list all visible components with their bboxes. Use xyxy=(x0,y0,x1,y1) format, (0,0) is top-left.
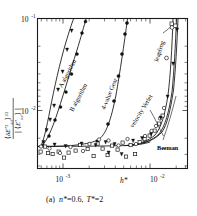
curve-label-four-value-gear: 4-value Gear xyxy=(99,76,118,110)
x-tick-exponent-left: -3 xyxy=(66,173,71,179)
y-title-numerator-symbol: δE xyxy=(4,129,11,136)
energy-fluctuation-log-log-chart: 10 -1 10 -2 10 -3 10 -2 h* ⟨δE*2tot⟩1/2 xyxy=(0,0,197,216)
figure-caption: (a)n*=0.6,T*=2 xyxy=(46,195,103,204)
x-axis-title: h* xyxy=(120,176,128,185)
curve-label-leapfrog: leapfrog xyxy=(152,39,165,62)
figure-panel: 10 -1 10 -2 10 -3 10 -2 h* ⟨δE*2tot⟩1/2 xyxy=(0,0,197,216)
svg-text:⟨δE*2tot⟩1/2: ⟨δE*2tot⟩1/2 xyxy=(4,112,14,139)
y-tick-mantissa-top: 10 xyxy=(21,15,29,24)
y-tick-label-1e-1: 10 -1 xyxy=(21,13,36,24)
caption-density-value: =0.6, xyxy=(67,195,84,204)
x-tick-exponent-right: -2 xyxy=(160,173,165,179)
y-tick-mantissa-bottom: 10 xyxy=(21,107,29,116)
y-title-denominator-bars-open: ❘⟨ xyxy=(14,126,22,135)
y-tick-label-1e-2: 10 -2 xyxy=(21,105,36,116)
y-tick-exponent-bottom: -2 xyxy=(31,105,36,111)
y-title-numerator-power: 1/2 xyxy=(4,112,9,118)
curve-label-velocity-verlet: velocity Verlet xyxy=(128,93,154,129)
caption-index: (a) xyxy=(46,195,55,204)
curve-label-beeman: Beeman xyxy=(157,144,179,151)
curve-label-a-algorithm: A algorithm xyxy=(57,58,78,88)
curve-label-b-algorithm: B algorithm xyxy=(68,82,89,112)
x-tick-mantissa-left: 10 xyxy=(56,175,64,184)
leader-line-beeman xyxy=(163,96,176,140)
x-tick-label-1e-2: 10 -2 xyxy=(150,173,165,184)
caption-density-symbol: n* xyxy=(59,195,67,204)
leader-line-leapfrog xyxy=(163,27,171,33)
caption-temperature-value: =2 xyxy=(95,195,104,204)
y-axis-title: ⟨δE*2tot⟩1/2 ❘⟨E*tot⟩❘ xyxy=(4,98,24,139)
x-tick-mantissa-right: 10 xyxy=(150,175,158,184)
y-title-denominator-bars-close: ⟩❘ xyxy=(14,106,22,115)
y-tick-exponent-top: -1 xyxy=(31,13,36,19)
x-tick-label-1e-3: 10 -3 xyxy=(56,173,71,184)
caption-temperature-symbol: T* xyxy=(86,195,94,204)
svg-text:(a)n*=0.6,T*=2: (a)n*=0.6,T*=2 xyxy=(46,195,103,204)
